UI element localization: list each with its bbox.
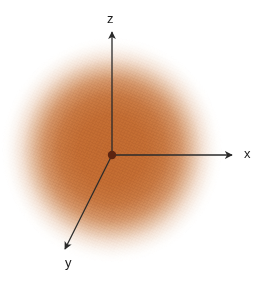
x-axis-label: x	[244, 147, 251, 160]
origin-dot	[108, 151, 116, 159]
y-axis-line	[65, 155, 112, 249]
orbital-diagram-figure: z x y	[0, 0, 271, 286]
coordinate-axes	[0, 0, 271, 286]
z-axis-label: z	[107, 12, 114, 25]
y-axis-label: y	[65, 256, 72, 269]
